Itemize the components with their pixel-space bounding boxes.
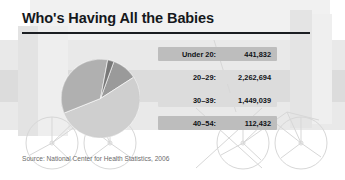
source-note: Source: National Center for Health Stati…	[22, 155, 169, 162]
row-label: 40–54:	[158, 119, 222, 128]
row-label: Under 20:	[158, 50, 222, 59]
background-right-ribbon-highlight	[312, 14, 332, 124]
table-row: Under 20: 441,832	[158, 47, 277, 61]
background-right-ribbon	[290, 10, 312, 128]
row-value: 2,262,694	[222, 73, 277, 82]
row-label: 20–29:	[158, 73, 222, 82]
background-left-column	[18, 26, 38, 136]
row-value: 1,449,039	[222, 96, 277, 105]
pie-chart	[61, 59, 140, 138]
row-value: 112,432	[222, 119, 277, 128]
pie-chart-svg	[61, 59, 140, 138]
title-underline	[22, 32, 310, 34]
data-row-list: Under 20: 441,832 20–29: 2,262,694 30–39…	[158, 47, 277, 139]
infographic-figure: Who's Having All the Babies Under 20: 44…	[0, 0, 345, 180]
table-row: 30–39: 1,449,039	[158, 93, 277, 107]
page-title: Who's Having All the Babies	[22, 10, 214, 26]
row-value: 441,832	[222, 50, 277, 59]
table-row: 40–54: 112,432	[158, 116, 277, 130]
row-label: 30–39:	[158, 96, 222, 105]
table-row: 20–29: 2,262,694	[158, 70, 277, 84]
